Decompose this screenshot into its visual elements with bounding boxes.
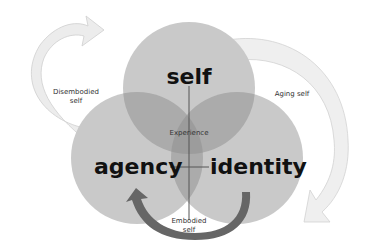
self-label: self [164, 64, 214, 89]
embodied-self-label: Embodied self [164, 217, 214, 235]
identity-label: identity [210, 154, 286, 179]
disembodied-self-line1: Disembodied [46, 88, 106, 97]
self-model-venn-diagram: self agency identity Experience Disembod… [0, 0, 378, 252]
embodied-self-line1: Embodied [164, 217, 214, 226]
experience-label: Experience [164, 129, 214, 138]
embodied-self-line2: self [164, 226, 214, 235]
diagram-canvas [0, 0, 378, 252]
aging-self-label: Aging self [262, 90, 322, 99]
agency-label: agency [94, 154, 170, 179]
disembodied-self-line2: self [46, 97, 106, 106]
disembodied-self-label: Disembodied self [46, 88, 106, 106]
